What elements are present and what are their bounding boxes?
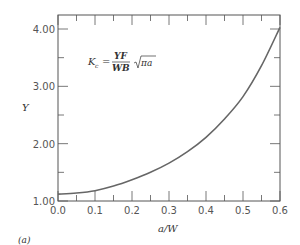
- panel-label: (a): [18, 235, 31, 245]
- formula-numerator: YF: [114, 51, 127, 61]
- plot-frame: [58, 15, 280, 201]
- x-tick-label: 0.6: [272, 205, 288, 216]
- y-axis-title: Y: [22, 102, 30, 113]
- y-tick-label: 2.00: [33, 139, 55, 150]
- ticks: [58, 15, 280, 201]
- x-tick-label: 0.2: [124, 205, 140, 216]
- y-tick-label: 4.00: [33, 24, 55, 35]
- x-tick-label: 0.3: [161, 205, 177, 216]
- formula-equals: =: [102, 56, 110, 67]
- chart: 0.00.10.20.30.40.50.61.002.003.004.00 Y …: [0, 0, 300, 245]
- formula-lhs-sub: c: [95, 62, 99, 69]
- x-tick-label: 0.1: [87, 205, 103, 216]
- formula-denominator: WB: [112, 63, 130, 73]
- x-axis-title: a/W: [158, 223, 178, 234]
- y-tick-label: 1.00: [33, 196, 55, 207]
- x-tick-label: 0.4: [198, 205, 214, 216]
- formula-annotation: K c = YF WB πa: [87, 51, 156, 73]
- x-tick-label: 0.5: [235, 205, 251, 216]
- y-tick-label: 3.00: [33, 81, 55, 92]
- series-line-y: [58, 27, 280, 194]
- formula-sqrt-arg: πa: [140, 58, 152, 68]
- tick-labels: 0.00.10.20.30.40.50.61.002.003.004.00: [33, 24, 288, 216]
